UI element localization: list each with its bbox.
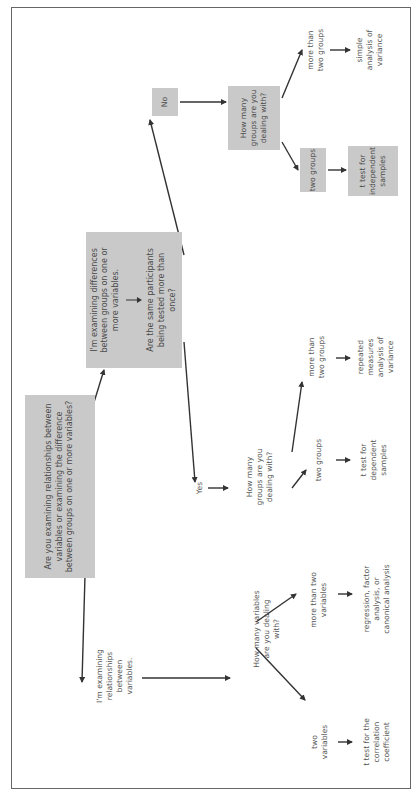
how-many-variables-question: How many variables are you dealing with? <box>232 590 302 668</box>
flowchart-stage: Are you examining relationships between … <box>0 0 417 800</box>
how-many-groups-no-box: How many groups are you dealing with? <box>228 86 280 150</box>
root-question-box: Are you examining relationships between … <box>25 395 95 578</box>
test-regression-factor-canonical: regression, factor analysis, or canonica… <box>352 564 402 634</box>
test-dependent-samples: t test for dependent samples <box>350 434 398 486</box>
option-two-groups-no-box: two groups <box>300 148 326 192</box>
test-independent-samples-box: t test for independent samples <box>348 146 398 196</box>
yes-label: Yes <box>192 476 208 500</box>
no-label-box: No <box>152 88 178 116</box>
option-more-than-two-groups-yes: more than two groups <box>298 330 336 384</box>
option-two-groups-yes: two groups <box>304 438 334 482</box>
option-more-than-two-variables: more than two variables <box>300 568 338 632</box>
root-question-text: Are you examining relationships between … <box>44 395 76 578</box>
how-many-groups-yes-question: How many groups are you dealing with? <box>228 444 292 510</box>
test-correlation-coefficient: t test for the correlation coefficient <box>352 710 402 774</box>
relationships-answer-text: I'm examining relationships between vari… <box>95 640 136 712</box>
same-participants-question: Are the same participants being tested m… <box>146 232 178 368</box>
test-simple-anova: simple analysis of variance <box>350 22 390 78</box>
differences-answer-text: I'm examining differences between groups… <box>90 232 122 368</box>
relationships-answer: I'm examining relationships between vari… <box>88 640 142 712</box>
option-two-variables: two variables <box>302 720 338 764</box>
test-repeated-measures-anova: repeated measures analysis of variance <box>350 328 402 386</box>
arrow-down-icon <box>126 296 142 304</box>
option-more-than-two-groups-no: more than two groups <box>302 24 330 76</box>
differences-box: I'm examining differences between groups… <box>86 232 182 368</box>
